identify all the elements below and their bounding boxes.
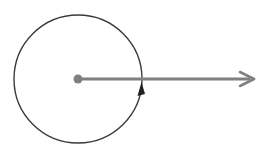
diagram-canvas xyxy=(0,0,275,150)
center-point xyxy=(74,75,83,84)
diagram-svg xyxy=(0,0,275,150)
rotation-arrowhead-icon xyxy=(138,82,146,96)
